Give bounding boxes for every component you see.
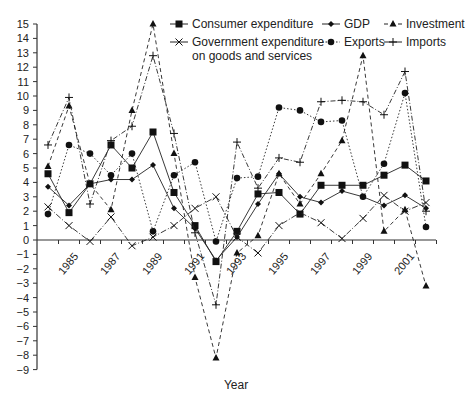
legend-item: Consumer expenditure bbox=[170, 17, 314, 31]
y-tick-label: −8 bbox=[16, 349, 29, 361]
y-tick-label: 14 bbox=[17, 32, 29, 44]
y-tick-label: 0 bbox=[23, 234, 29, 246]
x-tick-label: 1997 bbox=[307, 250, 332, 276]
legend-item: Exports bbox=[322, 35, 385, 49]
series-exports bbox=[45, 90, 430, 245]
y-tick-label: −1 bbox=[16, 248, 29, 260]
legend-item: GDP bbox=[322, 17, 370, 31]
svg-text:Imports: Imports bbox=[406, 35, 446, 49]
axes: −9−8−7−6−5−4−3−2−10123456789101112131415… bbox=[16, 18, 436, 376]
legend: Consumer expenditureGDPInvestmentGovernm… bbox=[170, 17, 465, 63]
series-investment bbox=[45, 20, 430, 361]
y-tick-label: 10 bbox=[17, 90, 29, 102]
y-tick-label: −5 bbox=[16, 306, 29, 318]
y-tick-label: −6 bbox=[16, 320, 29, 332]
series-consumer-expenditure bbox=[45, 129, 430, 266]
svg-text:Exports: Exports bbox=[344, 35, 385, 49]
y-tick-label: −2 bbox=[16, 263, 29, 275]
svg-text:GDP: GDP bbox=[344, 17, 370, 31]
svg-text:Investment: Investment bbox=[406, 17, 465, 31]
y-tick-label: 1 bbox=[23, 220, 29, 232]
legend-item: Imports bbox=[384, 35, 446, 49]
x-tick-label: 1991 bbox=[181, 250, 206, 276]
y-tick-label: 15 bbox=[17, 18, 29, 30]
y-tick-label: 5 bbox=[23, 162, 29, 174]
svg-text:Consumer expenditure: Consumer expenditure bbox=[192, 17, 314, 31]
y-tick-label: 2 bbox=[23, 205, 29, 217]
y-tick-label: 8 bbox=[23, 119, 29, 131]
x-tick-label: 1995 bbox=[265, 250, 290, 276]
series-government-expenditure-on-goods-and-services bbox=[45, 192, 430, 257]
y-tick-label: 4 bbox=[23, 176, 29, 188]
y-tick-label: −9 bbox=[16, 364, 29, 376]
y-tick-label: 9 bbox=[23, 104, 29, 116]
y-tick-label: 13 bbox=[17, 47, 29, 59]
series-group bbox=[44, 20, 430, 361]
legend-label-cont: on goods and services bbox=[192, 49, 312, 63]
x-tick-label: 1985 bbox=[55, 250, 80, 276]
x-tick-label: 2001 bbox=[391, 250, 416, 276]
x-axis-label: Year bbox=[224, 378, 248, 392]
y-tick-label: 6 bbox=[23, 148, 29, 160]
y-tick-label: −3 bbox=[16, 277, 29, 289]
x-tick-label: 1999 bbox=[349, 250, 374, 276]
y-tick-label: 3 bbox=[23, 191, 29, 203]
legend-item: Investment bbox=[384, 17, 465, 31]
x-tick-label: 1989 bbox=[139, 250, 164, 276]
y-tick-label: 7 bbox=[23, 133, 29, 145]
svg-text:Government expenditure: Government expenditure bbox=[192, 35, 324, 49]
y-tick-label: −7 bbox=[16, 335, 29, 347]
legend-item: Government expenditure bbox=[170, 35, 324, 49]
y-tick-label: 11 bbox=[18, 76, 29, 88]
y-tick-label: −4 bbox=[16, 292, 29, 304]
x-tick-label: 1987 bbox=[97, 250, 122, 276]
line-chart: −9−8−7−6−5−4−3−2−10123456789101112131415… bbox=[0, 0, 475, 413]
y-tick-label: 12 bbox=[17, 61, 29, 73]
